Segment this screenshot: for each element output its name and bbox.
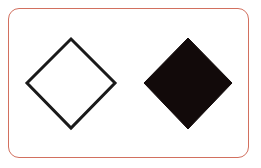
shapes-canvas xyxy=(0,0,261,168)
filled-diamond xyxy=(144,38,232,129)
outline-diamond xyxy=(27,39,115,128)
